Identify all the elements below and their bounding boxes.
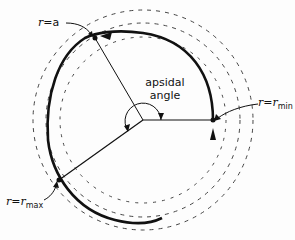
radius-line-max [59, 120, 143, 180]
leader-min-head [214, 114, 221, 121]
label-val: r [272, 96, 277, 109]
point-max [57, 178, 62, 183]
orbit-path [48, 31, 213, 223]
orbit-diagram: r=a r=rmin r=rmax apsidal angle [0, 0, 295, 240]
orbit-arrow-min [210, 128, 216, 140]
label-r-equals-rmin: r=rmin [258, 96, 293, 109]
leader-max [44, 186, 56, 200]
label-val: r [20, 195, 25, 208]
point-a [93, 36, 98, 41]
label-r-equals-rmax: r=rmax [6, 195, 43, 208]
label-r-equals-a: r=a [38, 16, 59, 29]
apsidal-arrow-right [158, 113, 164, 120]
label-val: a [52, 16, 59, 29]
apsidal-label-line1: apsidal [140, 76, 190, 89]
apsidal-angle-arc [125, 103, 161, 131]
orbit-figure [0, 0, 295, 240]
label-sub: max [26, 201, 43, 210]
label-sub: min [278, 102, 293, 111]
radius-line-a [95, 38, 143, 120]
apsidal-angle-label: apsidal angle [140, 76, 190, 102]
apsidal-label-line2: angle [140, 89, 190, 102]
